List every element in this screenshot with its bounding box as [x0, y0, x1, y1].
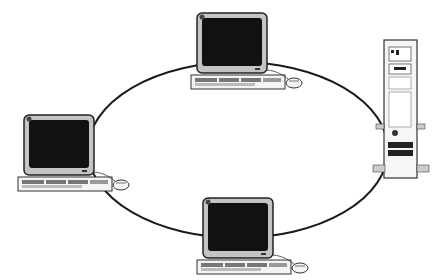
workstation-left — [18, 115, 129, 191]
workstation-bottom — [197, 198, 308, 274]
server-tower — [373, 40, 429, 178]
workstation-top — [191, 13, 302, 89]
ring-network-diagram — [0, 0, 443, 280]
